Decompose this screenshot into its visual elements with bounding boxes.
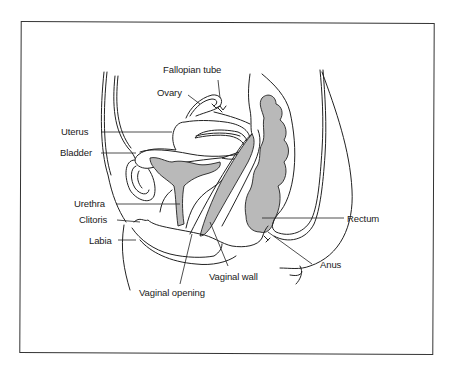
label-urethra: Urethra — [74, 198, 105, 209]
label-bladder: Bladder — [60, 147, 92, 158]
back-outline — [280, 72, 352, 284]
label-clitoris: Clitoris — [79, 214, 107, 225]
label-vaginal-opening: Vaginal opening — [139, 287, 205, 298]
label-vaginal-wall: Vaginal wall — [209, 271, 258, 282]
label-labia: Labia — [89, 235, 112, 246]
label-uterus: Uterus — [61, 126, 88, 137]
label-anus: Anus — [320, 259, 341, 270]
label-rectum: Rectum — [347, 213, 379, 224]
anatomy-diagram — [0, 0, 453, 369]
ovary-fallopian-shape — [186, 95, 250, 124]
label-ovary: Ovary — [157, 87, 182, 98]
label-fallopian-tube: Fallopian tube — [163, 64, 221, 75]
